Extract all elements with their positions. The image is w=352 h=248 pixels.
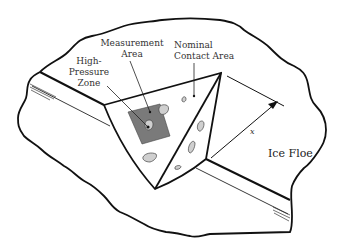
label-nominal-line1: Nominal	[174, 40, 234, 51]
label-high-pressure-zone: High- Pressure Zone	[66, 56, 112, 89]
ice-floe-diagram	[0, 0, 352, 248]
label-ice-floe: Ice Floe	[268, 148, 313, 159]
label-hp-line3: Zone	[66, 78, 112, 89]
label-hp-line2: Pressure	[66, 67, 112, 78]
label-nominal-contact-area: Nominal Contact Area	[174, 40, 234, 62]
label-distance-x: x	[250, 126, 255, 137]
label-nominal-line2: Contact Area	[174, 51, 234, 62]
label-hp-line1: High-	[66, 56, 112, 67]
label-measurement-line1: Measurement	[100, 38, 164, 49]
